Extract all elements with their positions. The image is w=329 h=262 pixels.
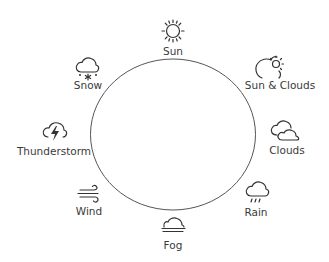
node-sun: Sun [162, 20, 184, 57]
cycle-ring [91, 59, 256, 210]
node-snow: Snow [74, 58, 103, 91]
label-sun: Sun [163, 45, 183, 57]
snow-icon [76, 58, 98, 80]
node-rain: Rain [244, 182, 268, 218]
node-wind: Wind [76, 185, 102, 217]
node-sun-clouds: Sun & Clouds [245, 56, 315, 91]
label-clouds: Clouds [269, 144, 304, 156]
node-clouds: Clouds [269, 121, 304, 156]
sun-icon [162, 20, 184, 42]
label-rain: Rain [244, 206, 267, 218]
snow-dot-left [79, 74, 81, 76]
label-wind: Wind [76, 205, 102, 217]
lightning-bolt [51, 126, 59, 141]
fog-icon [162, 218, 185, 232]
node-thunderstorm: Thunderstorm [16, 123, 91, 157]
label-fog: Fog [164, 239, 183, 251]
weather-cycle-diagram: Sun Sun & Clouds Clouds Rain [0, 0, 329, 262]
wind-icon [78, 185, 98, 202]
label-thunderstorm: Thunderstorm [16, 145, 91, 157]
clouds-icon [271, 121, 298, 140]
rain-icon [246, 182, 268, 202]
snow-dot-right [95, 74, 97, 76]
node-fog: Fog [162, 218, 185, 251]
label-sun-clouds: Sun & Clouds [245, 79, 315, 91]
label-snow: Snow [74, 79, 103, 91]
sun-clouds-icon [256, 56, 284, 78]
